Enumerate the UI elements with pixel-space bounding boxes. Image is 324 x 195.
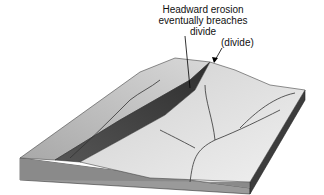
divide-label: (divide) [221,37,254,48]
headward-erosion-label: Headward erosion eventually breaches div… [148,4,258,37]
label-line-1: Headward erosion [148,4,258,15]
label-line-2: eventually breaches [148,15,258,26]
label-line-3: divide [148,26,258,37]
